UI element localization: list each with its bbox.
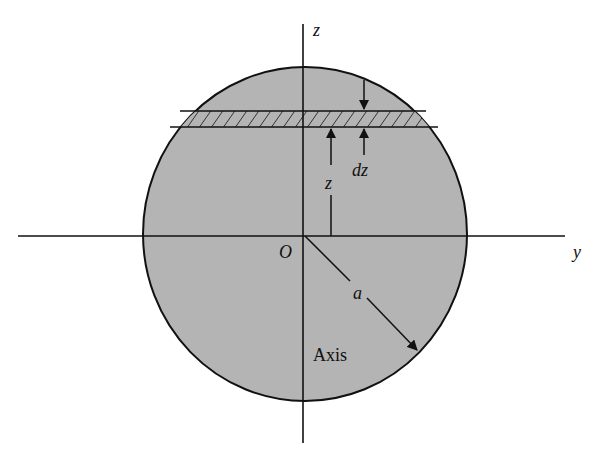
radius-label: a	[353, 283, 362, 303]
z-axis-label: z	[312, 20, 320, 40]
axis-label: Axis	[313, 345, 347, 365]
height-label: z	[324, 173, 332, 193]
disk-diagram: z y O z dz a Axis	[0, 0, 608, 458]
thickness-label: dz	[352, 160, 368, 180]
origin-label: O	[279, 242, 292, 262]
y-axis-label: y	[571, 242, 581, 262]
strip	[140, 111, 470, 127]
